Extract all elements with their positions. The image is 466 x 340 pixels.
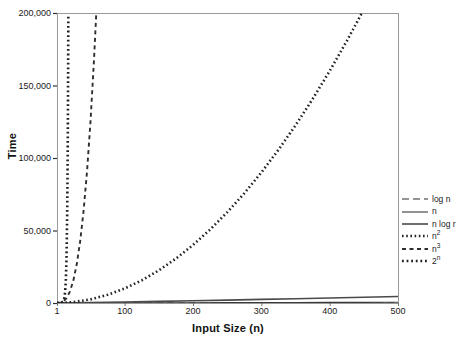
legend-label-log n: log n [432,195,450,204]
x-axis-title: Input Size (n) [57,322,399,334]
legend-label-n2: n2 [432,232,440,241]
x-tick-label: 500 [378,306,418,316]
legend-swatch-n log r [402,219,428,229]
legend-label-n: n [432,207,437,216]
plot-frame [58,14,399,304]
legend-swatch-n2 [402,231,428,241]
legend-swatch-n [402,207,428,217]
y-tick-label: 150,000 [5,81,51,91]
x-tick-label: 400 [310,306,350,316]
legend-item-2n[interactable]: 2n [402,255,466,267]
legend-swatch-2n [402,256,428,266]
legend-swatch-n3 [402,244,428,254]
x-tick-label: 300 [241,306,281,316]
plot-area [0,0,466,340]
chart-legend: log nnn log rn2n32n [402,193,466,267]
legend-item-n2[interactable]: n2 [402,230,466,242]
legend-item-n3[interactable]: n3 [402,243,466,255]
y-axis-tick-labels: 050,000100,000150,000200,000 [0,0,51,340]
time-complexity-chart: Time 050,000100,000150,000200,000 110020… [0,0,466,340]
x-tick-label: 200 [173,306,213,316]
legend-item-n[interactable]: n [402,205,466,217]
legend-swatch-log n [402,194,428,204]
y-tick-label: 200,000 [5,8,51,18]
legend-label-n log r: n log r [432,220,456,229]
y-tick-label: 100,000 [5,153,51,163]
legend-label-2n: 2n [432,257,440,266]
x-tick-label: 100 [105,306,145,316]
legend-label-n3: n3 [432,245,440,254]
legend-item-n log r[interactable]: n log r [402,218,466,230]
y-tick-label: 50,000 [5,226,51,236]
x-tick-label: 1 [37,306,77,316]
legend-item-log n[interactable]: log n [402,193,466,205]
